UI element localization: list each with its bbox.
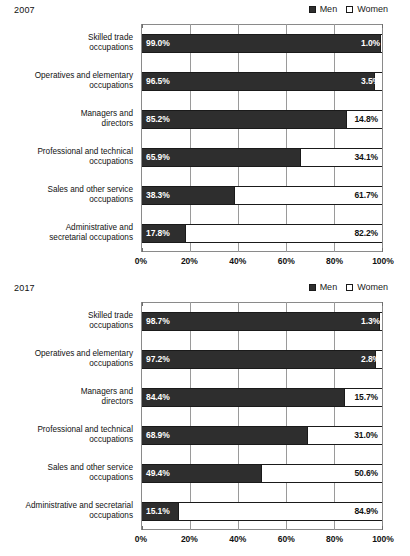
category-label-line: secretarial occupations <box>49 233 133 243</box>
bar-segment-men[interactable]: 38.3% <box>142 187 234 204</box>
table-row[interactable]: 17.8%82.2% <box>142 224 382 243</box>
category-label-line: occupations <box>26 511 133 521</box>
category-label-line: Sales and other service <box>47 185 133 195</box>
stacked-bar[interactable]: 68.9%31.0% <box>142 426 382 445</box>
chart-panel-2017: 2017MenWomen98.7%1.3%97.2%2.8%84.4%15.7%… <box>0 278 410 556</box>
stacked-bar[interactable]: 38.3%61.7% <box>142 186 382 205</box>
bar-segment-men[interactable]: 97.2% <box>142 351 375 368</box>
bar-segment-men[interactable]: 85.2% <box>142 111 346 128</box>
stacked-bar[interactable]: 85.2%14.8% <box>142 110 382 129</box>
legend-women-label: Women <box>357 5 388 14</box>
legend-women: Women <box>346 283 388 292</box>
bar-segment-women[interactable]: 2.8% <box>375 351 382 368</box>
category-labels: Skilled tradeoccupationsOperatives and e… <box>0 24 137 243</box>
bar-segment-women[interactable]: 50.6% <box>261 465 382 482</box>
legend-swatch-men-icon <box>309 6 316 13</box>
row-spacer <box>142 53 382 72</box>
table-row[interactable]: 97.2%2.8% <box>142 350 382 369</box>
stacked-bar[interactable]: 15.1%84.9% <box>142 502 382 521</box>
category-label-line: occupations <box>35 359 133 369</box>
category-label-0: Skilled tradeoccupations <box>0 312 137 331</box>
category-label-line: Administrative and <box>49 223 133 233</box>
category-labels: Skilled tradeoccupationsOperatives and e… <box>0 302 137 521</box>
table-row[interactable]: 85.2%14.8% <box>142 110 382 129</box>
bar-segment-women[interactable]: 34.1% <box>300 149 382 166</box>
stacked-bar[interactable]: 84.4%15.7% <box>142 388 382 407</box>
bar-segment-women[interactable]: 1.3% <box>379 313 382 330</box>
category-label-line: Managers and <box>81 109 133 119</box>
row-spacer <box>142 331 382 350</box>
category-label-line: occupations <box>37 157 133 167</box>
stacked-bar[interactable]: 98.7%1.3% <box>142 312 382 331</box>
row-spacer <box>142 302 382 312</box>
bar-value-women: 14.8% <box>354 115 378 124</box>
x-axis-labels: 0%20%40%60%80%100% <box>141 530 383 547</box>
stacked-bar[interactable]: 96.5%3.5% <box>142 72 382 91</box>
category-label-4: Sales and other serviceoccupations <box>0 464 137 483</box>
category-label-2: Managers anddirectors <box>0 388 137 407</box>
bar-segment-men[interactable]: 98.7% <box>142 313 379 330</box>
category-label-line: Sales and other service <box>47 463 133 473</box>
table-row[interactable]: 84.4%15.7% <box>142 388 382 407</box>
bar-segment-men[interactable]: 65.9% <box>142 149 300 166</box>
legend: MenWomen <box>309 5 388 14</box>
stacked-bar[interactable]: 17.8%82.2% <box>142 224 382 243</box>
table-row[interactable]: 98.7%1.3% <box>142 312 382 331</box>
bar-segment-women[interactable]: 1.0% <box>380 35 382 52</box>
stacked-bar[interactable]: 99.0%1.0% <box>142 34 382 53</box>
table-row[interactable]: 49.4%50.6% <box>142 464 382 483</box>
category-label-5: Administrative andsecretarial occupation… <box>0 224 137 243</box>
bar-segment-men[interactable]: 96.5% <box>142 73 374 90</box>
bar-value-women: 34.1% <box>354 153 378 162</box>
table-row[interactable]: 68.9%31.0% <box>142 426 382 445</box>
category-label-1: Operatives and elementaryoccupations <box>0 72 137 91</box>
bar-value-women: 82.2% <box>354 229 378 238</box>
stacked-bar[interactable]: 97.2%2.8% <box>142 350 382 369</box>
bar-segment-women[interactable]: 15.7% <box>344 389 382 406</box>
axis-tick-top-100 <box>382 24 383 28</box>
plot-area: 99.0%1.0%96.5%3.5%85.2%14.8%65.9%34.1%38… <box>141 24 383 252</box>
category-label-line: Professional and technical <box>37 147 133 157</box>
category-label-4: Sales and other serviceoccupations <box>0 186 137 205</box>
table-row[interactable]: 96.5%3.5% <box>142 72 382 91</box>
bar-segment-women[interactable]: 82.2% <box>185 225 382 242</box>
legend-swatch-men-icon <box>309 284 316 291</box>
bar-value-men: 65.9% <box>146 153 170 162</box>
bar-segment-men[interactable]: 17.8% <box>142 225 185 242</box>
bar-value-women: 31.0% <box>354 431 378 440</box>
bar-segment-men[interactable]: 84.4% <box>142 389 344 406</box>
bar-segment-women[interactable]: 84.9% <box>178 503 382 520</box>
bar-segment-men[interactable]: 68.9% <box>142 427 307 444</box>
bar-segment-women[interactable]: 31.0% <box>307 427 381 444</box>
bar-value-women: 1.0% <box>361 39 380 48</box>
row-spacer <box>142 243 382 253</box>
bar-segment-women[interactable]: 61.7% <box>234 187 382 204</box>
category-label-3: Professional and technicaloccupations <box>0 148 137 167</box>
bar-value-women: 1.3% <box>361 317 380 326</box>
table-row[interactable]: 99.0%1.0% <box>142 34 382 53</box>
year-label: 2017 <box>14 283 35 293</box>
bar-segment-men[interactable]: 99.0% <box>142 35 380 52</box>
axis-tick-top-100 <box>382 302 383 306</box>
stacked-bar[interactable]: 49.4%50.6% <box>142 464 382 483</box>
legend-women-label: Women <box>357 283 388 292</box>
bar-segment-women[interactable]: 3.5% <box>374 73 382 90</box>
bar-value-men: 97.2% <box>146 355 170 364</box>
bar-value-men: 68.9% <box>146 431 170 440</box>
x-tick-label-60: 60% <box>278 256 295 266</box>
bar-segment-men[interactable]: 49.4% <box>142 465 261 482</box>
table-row[interactable]: 15.1%84.9% <box>142 502 382 521</box>
table-row[interactable]: 65.9%34.1% <box>142 148 382 167</box>
bar-segment-men[interactable]: 15.1% <box>142 503 178 520</box>
legend-swatch-women-icon <box>346 6 353 13</box>
table-row[interactable]: 38.3%61.7% <box>142 186 382 205</box>
legend-men: Men <box>309 5 338 14</box>
bar-segment-women[interactable]: 14.8% <box>346 111 382 128</box>
bar-value-women: 2.8% <box>361 355 380 364</box>
category-label-5: Administrative and secretarialoccupation… <box>0 502 137 521</box>
x-tick-label-40: 40% <box>229 256 246 266</box>
x-tick-label-40: 40% <box>229 534 246 544</box>
bar-rows: 99.0%1.0%96.5%3.5%85.2%14.8%65.9%34.1%38… <box>142 24 382 252</box>
stacked-bar[interactable]: 65.9%34.1% <box>142 148 382 167</box>
row-spacer <box>142 407 382 426</box>
